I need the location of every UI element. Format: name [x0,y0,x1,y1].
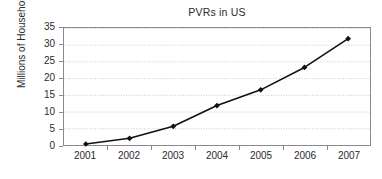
x-tick-label: 2006 [283,150,327,162]
plot-area [63,27,371,146]
y-tick-label: 0 [31,141,55,151]
chart-figure: PVRs in US Millions of Households 051015… [0,0,382,179]
y-tick-label: 20 [31,73,55,83]
y-tick-label: 25 [31,56,55,66]
x-tick-label: 2007 [327,150,371,162]
x-tick-mark [283,146,284,150]
x-axis-tick-labels: 2001200220032004200520062007 [63,150,371,166]
x-tick-label: 2002 [107,150,151,162]
y-tick-label: 5 [31,124,55,134]
x-tick-label: 2001 [63,150,107,162]
data-series-line [64,28,370,145]
y-tick-mark [59,146,63,147]
x-tick-mark [239,146,240,150]
y-tick-label: 30 [31,39,55,49]
x-tick-mark [107,146,108,150]
x-tick-mark [151,146,152,150]
y-tick-label: 35 [31,22,55,32]
y-tick-label: 15 [31,90,55,100]
x-tick-label: 2003 [151,150,195,162]
x-tick-label: 2005 [239,150,283,162]
x-tick-mark [327,146,328,150]
y-tick-label: 10 [31,107,55,117]
x-tick-label: 2004 [195,150,239,162]
x-tick-mark [195,146,196,150]
